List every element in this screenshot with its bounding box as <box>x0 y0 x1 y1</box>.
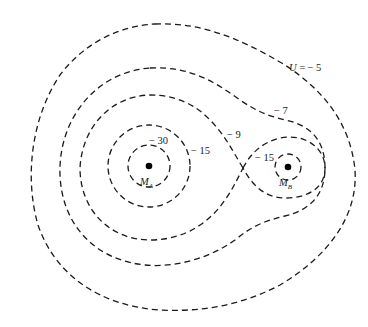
equipotential-diagram: MA MB U=− 5 − 7 − 9 − 15 − 15 − 30 <box>0 0 368 327</box>
contour-minus-9-left-lobe <box>80 95 243 240</box>
label-minus-15-b: − 15 <box>255 152 274 163</box>
label-minus-7: − 7 <box>274 105 288 116</box>
label-minus-30: − 30 <box>149 135 168 146</box>
contour-minus-9-right-lobe <box>243 137 325 198</box>
label-u-minus-5: U=− 5 <box>289 62 321 73</box>
mass-a-point <box>146 163 153 170</box>
mass-b-point <box>285 164 292 171</box>
mass-b-label: MB <box>278 177 293 191</box>
label-minus-9: − 9 <box>227 129 241 140</box>
label-minus-15-a: − 15 <box>191 145 210 156</box>
